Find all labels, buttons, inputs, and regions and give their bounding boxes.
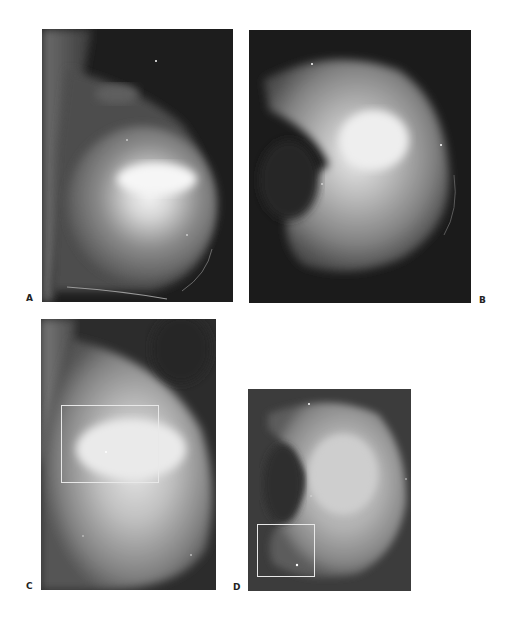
region-of-interest-box-c <box>61 405 159 483</box>
mammogram-image-b <box>249 30 471 303</box>
panel-label-c: C <box>26 582 33 591</box>
mammogram-image-a <box>42 29 233 302</box>
panel-label-b: B <box>479 296 486 305</box>
panel-label-d: D <box>233 583 240 592</box>
mammogram-panel-a <box>42 29 233 302</box>
panel-label-a: A <box>26 294 33 303</box>
mammogram-panel-b <box>249 30 471 303</box>
region-of-interest-box-d <box>257 524 315 577</box>
